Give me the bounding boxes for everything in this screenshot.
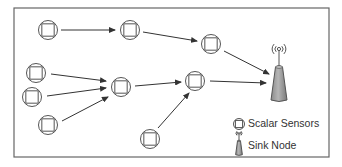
legend-label-sink-node: Sink Node [248,140,296,151]
radio-wave-icon [272,44,274,54]
sink-node-icon [271,44,287,101]
edge-s5-to-s7 [47,88,106,96]
legend-scalar-sensor-icon [234,119,245,130]
radio-wave-icon [284,44,286,54]
sensor-node-s9 [141,130,160,149]
edge-s4-to-s7 [51,74,106,81]
legend-sink-node-icon [236,131,243,155]
sensor-node-s8 [186,72,205,91]
radio-wave-icon [282,46,283,52]
edge-s2-to-s3 [143,32,197,41]
edge-s8-to-sink [210,81,266,83]
edges-layer [47,30,269,128]
sensor-node-s6 [39,116,58,135]
legend [234,119,245,156]
edge-s6-to-s7 [62,97,108,121]
sensor-node-s2 [121,21,140,40]
sensor-node-s4 [27,64,46,83]
edge-s7-to-s8 [135,82,181,86]
legend-label-scalar-sensors: Scalar Sensors [248,118,319,129]
radio-wave-icon [275,46,276,52]
sensor-node-s1 [39,21,58,40]
sensor-node-s5 [23,88,42,107]
sensor-node-s7 [112,78,131,97]
edge-s9-to-s8 [158,93,189,128]
sensor-node-s3 [202,35,221,54]
edge-s3-to-sink [224,51,269,74]
